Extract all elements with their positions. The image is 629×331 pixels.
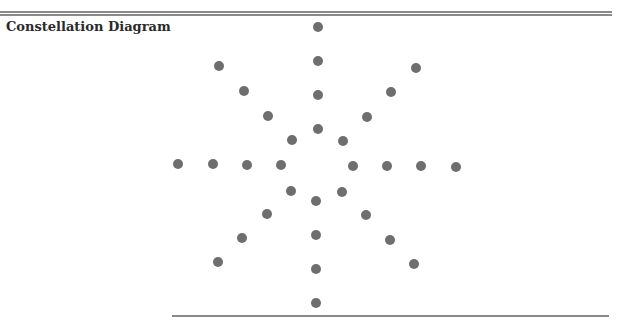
constellation-point <box>263 111 273 121</box>
constellation-point <box>451 162 461 172</box>
top-rule-lower <box>0 14 612 16</box>
constellation-point <box>237 233 247 243</box>
constellation-point <box>409 259 419 269</box>
constellation-point <box>313 56 323 66</box>
constellation-point <box>173 159 183 169</box>
constellation-point <box>386 87 396 97</box>
constellation-point <box>313 124 323 134</box>
constellation-point <box>311 230 321 240</box>
constellation-point <box>311 264 321 274</box>
constellation-point <box>385 235 395 245</box>
constellation-point <box>213 257 223 267</box>
bottom-rule <box>172 315 609 317</box>
constellation-point <box>208 159 218 169</box>
constellation-point <box>313 90 323 100</box>
constellation-point <box>416 161 426 171</box>
constellation-point <box>286 186 296 196</box>
constellation-point <box>348 161 358 171</box>
constellation-point <box>362 112 372 122</box>
constellation-point <box>382 161 392 171</box>
constellation-point <box>276 160 286 170</box>
constellation-point <box>411 63 421 73</box>
constellation-point <box>311 298 321 308</box>
diagram-title: Constellation Diagram <box>6 19 171 34</box>
constellation-point <box>287 135 297 145</box>
top-rule-upper <box>0 11 612 13</box>
constellation-point <box>242 160 252 170</box>
constellation-point <box>337 187 347 197</box>
constellation-point <box>313 22 323 32</box>
constellation-point <box>338 136 348 146</box>
constellation-point <box>214 61 224 71</box>
constellation-point <box>262 209 272 219</box>
constellation-point <box>361 210 371 220</box>
constellation-point <box>311 196 321 206</box>
constellation-point <box>239 86 249 96</box>
